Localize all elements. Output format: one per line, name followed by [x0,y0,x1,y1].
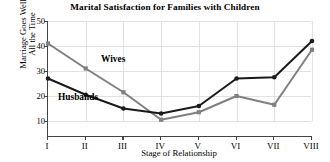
data-point-wives [272,103,276,107]
data-point-husbands [46,76,51,81]
data-point-wives [310,48,314,52]
data-point-husbands [121,106,126,111]
series-label-wives: Wives [101,54,125,64]
data-point-husbands [234,76,239,81]
data-point-wives [46,41,50,45]
data-point-husbands [272,75,277,80]
chart-title: Marital Satisfaction for Families with C… [0,2,330,12]
y-axis-tick-labels: 1020304050 [0,0,45,162]
plot-inner [48,21,311,121]
series-label-husbands: Husbands [58,92,98,102]
data-point-husbands [159,111,164,116]
data-point-wives [121,90,125,94]
x-tick-mark [47,136,48,140]
data-point-wives [197,110,201,114]
data-point-wives [84,66,88,70]
data-point-wives [159,118,163,122]
series-layer [48,21,312,121]
gridline-vertical [312,21,313,121]
x-axis-title: Stage of Relationship [47,148,311,158]
gridline-horizontal [48,121,311,122]
x-tick-mark [311,136,312,140]
x-tick-mark [198,136,199,140]
y-axis-lower-extension [47,121,48,137]
x-tick-mark [122,136,123,140]
x-tick-mark [236,136,237,140]
plot-area [47,21,311,121]
x-tick-mark [273,136,274,140]
data-point-wives [234,94,238,98]
chart-figure: Marital Satisfaction for Families with C… [0,0,330,162]
data-point-husbands [310,39,315,44]
x-tick-mark [85,136,86,140]
x-tick-mark [160,136,161,140]
data-point-husbands [197,104,202,109]
series-line-wives [48,44,312,120]
